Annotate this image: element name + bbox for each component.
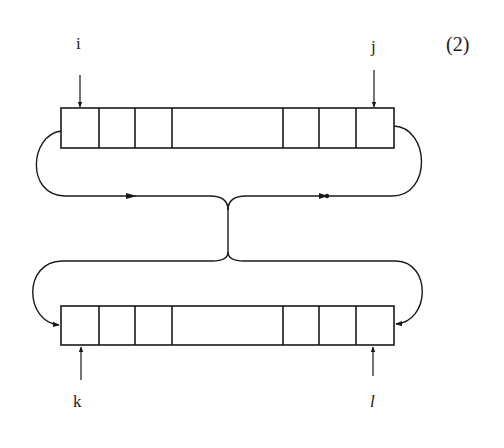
bottom-buffer [61,306,394,345]
pointer-label-i: i [76,35,81,52]
pointer-label-l: l [370,393,375,410]
top-buffer [61,108,394,148]
flow-paths [33,126,423,325]
bottom-right-loop [228,252,422,324]
equation-number: (2) [446,34,469,54]
pointer-label-k: k [73,393,82,410]
pointer-label-j: j [371,38,376,55]
top-right-loop [228,126,422,210]
top-left-loop [36,131,228,210]
merge-diagram [0,0,504,448]
pointer-arrows [80,70,374,380]
right-arrow-icon [126,193,137,199]
bottom-left-loop [33,252,228,325]
